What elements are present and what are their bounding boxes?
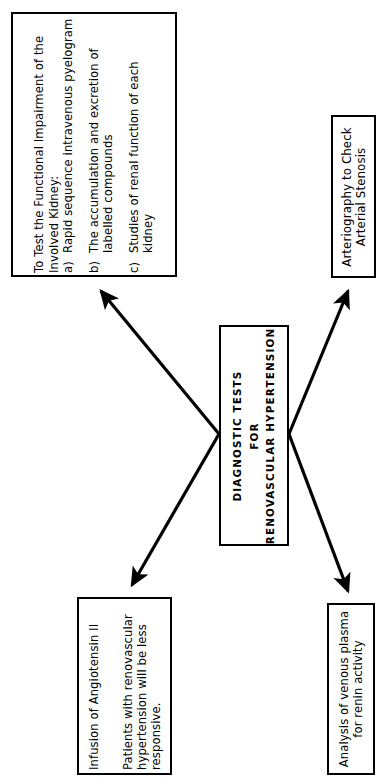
node-functional-impairment-text: To Test the Functional Impairment of the… xyxy=(16,17,172,273)
functional-impairment-item-b-cont: labelled compounds xyxy=(101,17,116,273)
node-arteriography-text: Arteriography to Check Arterial Stenosis xyxy=(336,121,372,273)
node-renin-activity: Analysis of venous plasma for renin acti… xyxy=(327,603,375,775)
functional-impairment-heading-line-1: To Test the Functional Impairment of the xyxy=(32,17,47,273)
functional-impairment-item-a-marker: a) xyxy=(61,253,76,273)
functional-impairment-item-b-text: The accumulation and excretion of xyxy=(87,48,102,253)
spacer xyxy=(111,602,120,770)
spacer-marker xyxy=(101,253,116,273)
spacer xyxy=(76,17,87,273)
spacer-marker xyxy=(141,253,156,273)
functional-impairment-item-a-text: Rapid sequence intravenous pyelogram xyxy=(61,18,76,252)
central-line-3: RENOVASCULAR HYPERTENSION xyxy=(262,327,279,544)
spacer xyxy=(116,17,127,273)
central-line-1: DIAGNOSTIC TESTS xyxy=(229,370,246,501)
node-angiotensin-text: Infusion of Angiotensin II Patients with… xyxy=(84,602,166,770)
functional-impairment-item-b-text-2: labelled compounds xyxy=(101,134,116,253)
functional-impairment-item-c: c) Studies of renal function of each xyxy=(127,17,142,273)
functional-impairment-item-a: a) Rapid sequence intravenous pyelogram xyxy=(61,17,76,273)
functional-impairment-item-c-text-2: kidney xyxy=(141,213,156,252)
functional-impairment-item-b: b) The accumulation and excretion of xyxy=(87,17,102,273)
angiotensin-line-3: hypertension will be less xyxy=(135,602,149,770)
functional-impairment-item-b-marker: b) xyxy=(87,253,102,273)
angiotensin-line-4: responsive. xyxy=(149,602,163,770)
angiotensin-line-1: Infusion of Angiotensin II xyxy=(86,602,100,770)
node-arteriography: Arteriography to Check Arterial Stenosis xyxy=(331,115,376,278)
functional-impairment-item-c-marker: c) xyxy=(127,253,142,273)
renin-line-1: Analysis of venous plasma xyxy=(337,611,351,767)
renin-line-2: for renin activity xyxy=(351,640,365,737)
central-line-2: FOR xyxy=(246,422,263,449)
node-central-text: DIAGNOSTIC TESTS FOR RENOVASCULAR HYPERT… xyxy=(226,333,282,539)
functional-impairment-heading-line-2: Involved Kidney: xyxy=(47,17,62,273)
node-diagnostic-tests-center: DIAGNOSTIC TESTS FOR RENOVASCULAR HYPERT… xyxy=(219,325,289,546)
edge-center-to-arteriography xyxy=(289,291,348,434)
functional-impairment-item-c-cont: kidney xyxy=(141,17,156,273)
node-angiotensin-infusion: Infusion of Angiotensin II Patients with… xyxy=(77,597,172,775)
node-renin-text: Analysis of venous plasma for renin acti… xyxy=(333,609,369,769)
edge-center-to-renin xyxy=(289,434,348,591)
edge-center-to-functional-impairment xyxy=(101,291,219,434)
node-functional-impairment: To Test the Functional Impairment of the… xyxy=(11,12,177,277)
functional-impairment-item-c-text: Studies of renal function of each xyxy=(127,61,142,253)
edge-center-to-angiotensin xyxy=(132,434,219,585)
diagram-canvas: To Test the Functional Impairment of the… xyxy=(0,0,385,782)
arteriography-line-2: Arterial Stenosis xyxy=(354,147,368,246)
arteriography-line-1: Arteriography to Check xyxy=(339,127,353,267)
angiotensin-line-2: Patients with renovascular xyxy=(120,602,134,770)
spacer xyxy=(100,602,111,770)
